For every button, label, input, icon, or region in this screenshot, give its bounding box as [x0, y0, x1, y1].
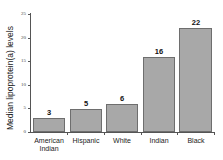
- bar-chart: Median lipoprotein(a) levels 0 5 10 15 2…: [0, 0, 223, 160]
- x-category-label: Black: [176, 137, 216, 145]
- x-category-label-line: American: [29, 137, 69, 145]
- x-tick: [67, 132, 68, 135]
- y-tick: [28, 14, 31, 15]
- x-category-label: American Indian: [29, 137, 69, 153]
- x-category-label-line: Indian: [29, 145, 69, 153]
- y-tick-label: 5: [12, 105, 26, 110]
- bar-black: [179, 28, 212, 132]
- y-axis-label: Median lipoprotein(a) levels: [5, 26, 15, 130]
- bar-white: [106, 104, 138, 132]
- y-tick: [28, 108, 31, 109]
- value-label: 3: [32, 108, 66, 117]
- y-tick: [28, 85, 31, 86]
- y-tick-label: 15: [12, 58, 26, 63]
- x-tick: [177, 132, 178, 135]
- value-label: 22: [179, 18, 213, 27]
- x-category-label: Hispanic: [66, 137, 106, 145]
- y-tick-label: 0: [12, 129, 26, 134]
- x-tick: [141, 132, 142, 135]
- y-tick: [28, 132, 31, 133]
- value-label: 5: [69, 99, 103, 108]
- value-label: 6: [105, 94, 139, 103]
- x-axis: [30, 132, 215, 133]
- bar-hispanic: [70, 109, 102, 132]
- y-tick-label: 10: [12, 82, 26, 87]
- x-category-label: Indian: [139, 137, 179, 145]
- y-tick-label: 20: [12, 35, 26, 40]
- x-category-label: White: [102, 137, 142, 145]
- y-tick: [28, 38, 31, 39]
- bar-american-indian: [33, 118, 65, 132]
- x-tick: [104, 132, 105, 135]
- bar-indian: [143, 57, 175, 132]
- value-label: 16: [142, 47, 176, 56]
- x-tick: [214, 132, 215, 135]
- y-tick-label: 25: [12, 11, 26, 16]
- y-axis: [30, 13, 31, 132]
- y-tick: [28, 61, 31, 62]
